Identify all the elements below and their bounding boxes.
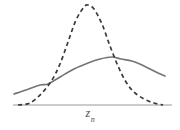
x-axis-label-base: z [85,106,90,120]
broad-solid-curve [14,57,165,94]
x-axis-label-subscript: n [91,115,95,124]
figure-container: zn [0,0,180,130]
narrow-dashed-curve [18,5,163,105]
x-axis-label: zn [0,106,180,125]
